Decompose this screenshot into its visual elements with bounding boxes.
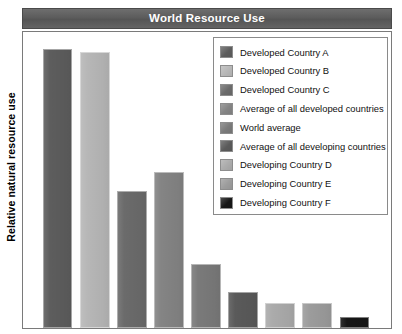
legend-item: Average of all developing countries <box>220 137 381 156</box>
legend-swatch-icon <box>220 65 233 77</box>
legend-item: Developing Country E <box>220 175 381 194</box>
legend-label: Developing Country D <box>240 160 332 169</box>
chart-title-bar: World Resource Use <box>22 8 392 29</box>
chart-figure: World Resource Use Relative natural reso… <box>0 0 402 334</box>
legend-label: Developed Country C <box>240 85 330 94</box>
legend-item: Developing Country D <box>220 156 381 175</box>
legend-label: Developing Country F <box>240 198 331 207</box>
y-axis-label: Relative natural resource use <box>0 0 22 334</box>
legend-item: World average <box>220 118 381 137</box>
bar <box>302 303 332 328</box>
bar <box>154 172 184 328</box>
chart-legend: Developed Country ADeveloped Country BDe… <box>213 37 388 215</box>
legend-label: World average <box>240 123 301 132</box>
legend-item: Average of all developed countries <box>220 99 381 118</box>
legend-swatch-icon <box>220 159 233 171</box>
legend-item: Developing Country F <box>220 193 381 212</box>
bar <box>191 264 221 328</box>
legend-item: Developed Country B <box>220 62 381 81</box>
bar <box>117 191 147 328</box>
legend-label: Developed Country A <box>240 48 329 57</box>
legend-swatch-icon <box>220 46 233 58</box>
legend-label: Average of all developed countries <box>240 104 384 113</box>
legend-swatch-icon <box>220 84 233 96</box>
bar <box>228 292 258 328</box>
bar <box>340 317 370 328</box>
legend-label: Developed Country B <box>240 66 329 75</box>
legend-item: Developed Country C <box>220 81 381 100</box>
chart-title: World Resource Use <box>149 13 265 25</box>
bar <box>43 49 73 328</box>
legend-swatch-icon <box>220 140 233 152</box>
legend-item: Developed Country A <box>220 43 381 62</box>
legend-label: Average of all developing countries <box>240 142 386 151</box>
bar <box>80 52 110 328</box>
legend-label: Developing Country E <box>240 179 331 188</box>
legend-swatch-icon <box>220 178 233 190</box>
legend-swatch-icon <box>220 103 233 115</box>
legend-swatch-icon <box>220 122 233 134</box>
bar <box>265 303 295 328</box>
y-axis-label-text: Relative natural resource use <box>5 92 17 241</box>
legend-swatch-icon <box>220 197 233 209</box>
